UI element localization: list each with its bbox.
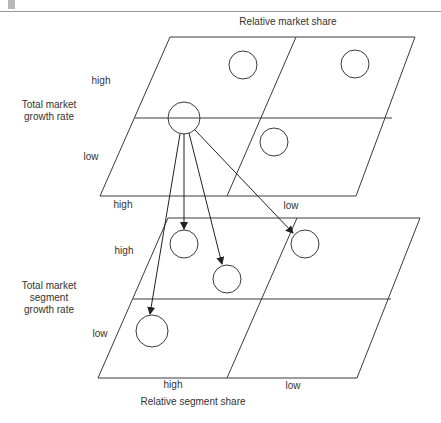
bottom-x-axis-title: Relative segment share — [128, 396, 258, 408]
top-x-label-low: low — [280, 200, 302, 212]
bottom-x-label-low: low — [282, 380, 304, 392]
bubble-bottom-4 — [136, 315, 168, 347]
bubble-bottom-3 — [291, 230, 319, 258]
bubble-bottom-2 — [213, 265, 241, 293]
bubble-top-3 — [260, 128, 288, 156]
top-y-axis-title: Total market growth rate — [4, 99, 94, 123]
top-y-label-high: high — [87, 75, 115, 87]
bottom-grid — [98, 218, 420, 378]
top-grid — [100, 37, 415, 196]
top-x-label-high: high — [108, 199, 138, 211]
arrows — [150, 130, 293, 314]
top-y-label-low: low — [80, 151, 102, 163]
bottom-y-label-low: low — [89, 328, 111, 340]
bubble-top-2 — [341, 50, 369, 78]
bottom-y-label-high: high — [110, 245, 138, 257]
bottom-x-label-high: high — [158, 379, 188, 391]
bottom-y-axis-title: Total market segment growth rate — [4, 280, 94, 316]
top-x-axis-title: Relative market share — [228, 16, 348, 28]
portfolio-diagram — [0, 0, 441, 423]
bubble-bottom-1 — [170, 230, 198, 258]
bubble-top-1 — [229, 51, 257, 79]
